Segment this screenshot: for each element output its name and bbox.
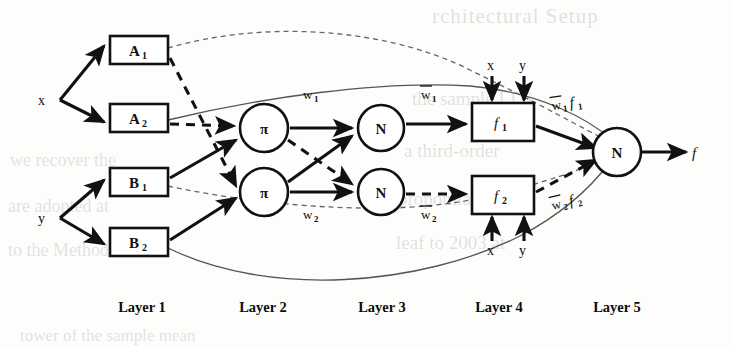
node-A2-sub: 2 — [142, 118, 147, 129]
edge-label-wbar2-base: w — [421, 207, 431, 222]
edge-label-w1-base: w — [303, 87, 313, 102]
node-N2[interactable]: N — [358, 169, 404, 215]
node-B1[interactable]: B 1 — [110, 168, 168, 196]
node-B2[interactable]: B 2 — [110, 228, 168, 256]
feed-label-y-bottom: y — [519, 243, 526, 258]
link-B2-to-pi2 — [170, 198, 236, 240]
layer-1-caption: Layer 1 — [118, 299, 166, 315]
node-B1-sub: 1 — [142, 182, 147, 193]
link-A2-to-pi1 — [170, 124, 234, 126]
edge-label-wbar1-sub: 1 — [432, 94, 437, 104]
edge-label-w1-sub: 1 — [314, 94, 319, 104]
node-f1-sub: 1 — [502, 122, 507, 133]
edge-label-w1: w 1 — [303, 87, 319, 104]
node-N3[interactable]: N — [593, 128, 641, 176]
node-A2-label: A — [129, 111, 140, 127]
edge-label-wbar2f2-tail: f — [567, 192, 577, 209]
layer-3-caption: Layer 3 — [358, 299, 406, 315]
link-y-to-B2 — [60, 218, 104, 244]
node-N2-label: N — [376, 185, 387, 201]
node-A2[interactable]: A 2 — [110, 104, 168, 132]
link-y-to-B1 — [60, 180, 104, 218]
node-N1-label: N — [376, 121, 387, 137]
input-y-label: y — [38, 211, 45, 226]
edge-label-w2-sub: 2 — [314, 214, 319, 224]
link-A1-to-pi2 — [170, 58, 236, 186]
output-f-label: f — [692, 145, 698, 161]
edge-label-wbar2f2-tail-sub: 2 — [577, 198, 584, 209]
node-pi2[interactable]: π — [240, 168, 288, 216]
edge-label-wbar1f1-tail-sub: 1 — [577, 101, 583, 112]
node-A1-label: A — [129, 43, 140, 59]
diagram-canvas: A 1 A 2 B 1 B 2 π π N — [0, 0, 732, 347]
node-N3-label: N — [612, 145, 623, 161]
node-pi1[interactable]: π — [240, 104, 288, 152]
link-pi1-to-N2 — [288, 140, 352, 184]
node-pi1-label: π — [260, 121, 269, 137]
input-x-label: x — [38, 93, 45, 108]
node-N1[interactable]: N — [358, 105, 404, 151]
link-B1-to-pi1 — [170, 140, 236, 178]
edge-label-wbar1f1: w 1 f 1 — [550, 93, 584, 115]
node-B2-label: B — [129, 235, 139, 251]
node-A1[interactable]: A 1 — [110, 36, 168, 64]
feed-label-y-top: y — [519, 58, 526, 73]
node-f2-sub: 2 — [502, 195, 507, 206]
edge-label-wbar1: w 1 — [420, 86, 437, 104]
node-A1-sub: 1 — [142, 50, 147, 61]
edge-label-wbar1-base: w — [421, 87, 431, 102]
edge-label-wbar2f2: w 2 f 2 — [549, 190, 584, 215]
link-pi2-to-N1 — [288, 136, 352, 182]
node-pi2-label: π — [260, 185, 269, 201]
edge-label-wbar1f1-sub: 1 — [563, 103, 569, 114]
edge-label-wbar2f2-base: w — [550, 196, 563, 213]
link-x-to-A1 — [60, 46, 104, 100]
edge-label-w2: w 2 — [303, 207, 319, 224]
edge-label-w2-base: w — [303, 207, 313, 222]
node-B2-sub: 2 — [142, 242, 147, 253]
edge-label-wbar2f2-sub: 2 — [562, 201, 569, 212]
feed-label-x-top: x — [487, 58, 494, 73]
node-B1-label: B — [129, 175, 139, 191]
edge-label-wbar2-sub: 2 — [432, 214, 437, 224]
node-f2[interactable]: f 2 — [472, 176, 534, 214]
link-f1-to-N3 — [536, 126, 596, 148]
link-f2-to-N3 — [536, 160, 596, 192]
anfis-diagram-figure: rchitectural Setup the sample LLS a thir… — [0, 0, 732, 347]
layer-4-caption: Layer 4 — [475, 299, 523, 315]
edge-label-wbar2: w 2 — [420, 206, 437, 224]
link-x-to-A2 — [60, 100, 104, 122]
edge-label-wbar1f1-base: w — [551, 97, 563, 113]
feed-label-x-bottom: x — [487, 243, 494, 258]
node-f1[interactable]: f 1 — [472, 103, 534, 141]
edge-label-wbar1f1-tail: f — [568, 94, 576, 111]
layer-2-caption: Layer 2 — [239, 299, 287, 315]
layer-5-caption: Layer 5 — [593, 299, 641, 315]
